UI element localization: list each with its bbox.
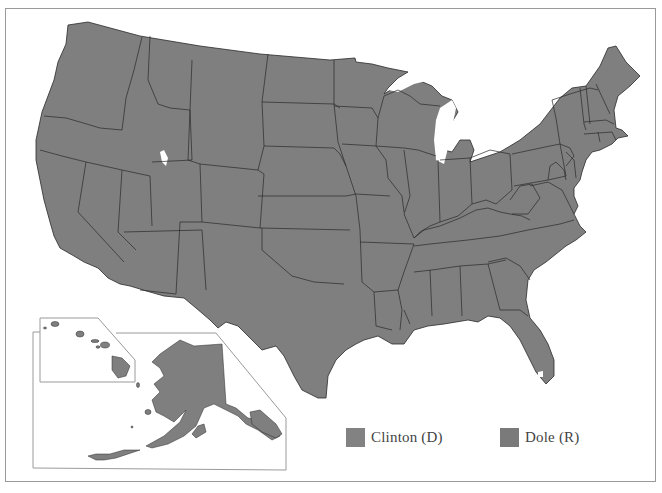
legend-item-clinton: Clinton (D) xyxy=(346,428,443,447)
legend-item-dole: Dole (R) xyxy=(500,428,580,447)
lake-okeechobee xyxy=(538,371,543,377)
legend-label-dole: Dole (R) xyxy=(525,429,580,446)
us-map xyxy=(0,0,662,493)
legend-swatch-dole xyxy=(500,428,519,447)
contiguous-us-landmass xyxy=(36,22,640,398)
legend-label-clinton: Clinton (D) xyxy=(371,429,443,446)
contiguous-us xyxy=(36,22,640,398)
legend-swatch-clinton xyxy=(346,428,365,447)
hawaii xyxy=(44,322,131,379)
